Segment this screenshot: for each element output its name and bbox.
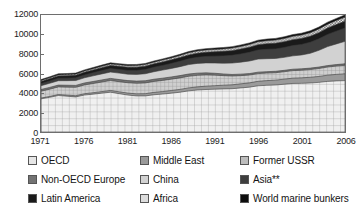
legend-item-former-ussr[interactable]: Former USSR [240,152,315,169]
x-tick-label: 2006 [329,136,359,146]
legend-label-china: China [153,174,179,185]
x-tick-label: 1971 [23,136,57,146]
y-tick-label: 12000 [2,10,38,19]
y-tick-mark [40,54,44,55]
x-tick-label: 1991 [198,136,232,146]
x-axis: 19711976198119861991199620012006 [0,134,359,150]
legend-label-africa: Africa [153,193,178,204]
legend-row: Latin America Africa World marine bunker… [0,190,359,207]
legend-label-asia: Asia** [253,174,280,185]
legend-item-middle-east[interactable]: Middle East [140,152,204,169]
legend-item-non-oecd-europe[interactable]: Non-OECD Europe [28,171,125,188]
x-tick-label: 1996 [242,136,276,146]
legend-item-world-marine-bunkers[interactable]: World marine bunkers [240,190,349,207]
y-tick-label: 8000 [2,50,38,59]
legend-swatch-oecd [28,156,37,165]
y-tick-mark [40,74,44,75]
legend-label-world-marine-bunkers: World marine bunkers [253,193,349,204]
legend-swatch-china [140,175,149,184]
y-tick-label: 6000 [2,70,38,79]
legend-label-oecd: OECD [41,155,70,166]
legend-swatch-world-marine-bunkers [240,194,249,203]
y-tick-mark [40,34,44,35]
y-tick-label: 10000 [2,30,38,39]
legend-item-asia[interactable]: Asia** [240,171,280,188]
x-tick-label: 1976 [67,136,101,146]
legend-row: OECD Middle East Former USSR [0,152,359,169]
y-tick-label: 4000 [2,89,38,98]
legend-label-non-oecd-europe: Non-OECD Europe [41,174,125,185]
legend-row: Non-OECD Europe China Asia** [0,171,359,188]
legend-item-latin-america[interactable]: Latin America [28,190,100,207]
legend-swatch-latin-america [28,194,37,203]
legend-swatch-former-ussr [240,156,249,165]
y-tick-mark [40,93,44,94]
legend-swatch-non-oecd-europe [28,175,37,184]
legend-item-oecd[interactable]: OECD [28,152,70,169]
legend-swatch-asia [240,175,249,184]
legend-swatch-africa [140,194,149,203]
area-series-svg [41,15,345,132]
plot-area [40,14,346,133]
y-tick-mark [40,113,44,114]
chart-legend: OECD Middle East Former USSR Non-OECD Eu… [0,150,359,212]
y-tick-label: 2000 [2,109,38,118]
legend-item-china[interactable]: China [140,171,179,188]
legend-swatch-middle-east [140,156,149,165]
legend-item-africa[interactable]: Africa [140,190,178,207]
x-tick-label: 2001 [285,136,319,146]
y-axis: 120001000080006000400020000 [0,0,38,150]
stacked-area-chart: 120001000080006000400020000 [0,0,359,150]
x-tick-label: 1981 [110,136,144,146]
legend-label-former-ussr: Former USSR [253,155,315,166]
chart-page: 120001000080006000400020000 [0,0,359,212]
x-tick-label: 1986 [154,136,188,146]
legend-label-middle-east: Middle East [153,155,204,166]
legend-label-latin-america: Latin America [41,193,100,204]
